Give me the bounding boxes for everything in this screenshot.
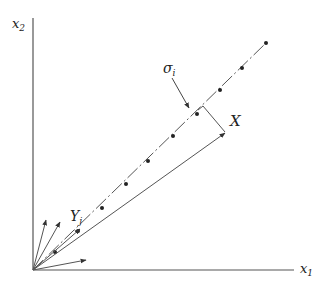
- diagram-canvas: x2 x1 σi X Yj: [0, 0, 328, 287]
- y-vector-line: [33, 229, 80, 270]
- point: [264, 41, 268, 45]
- x-vector-line: [33, 133, 225, 270]
- y-axis-label: x2: [12, 16, 25, 33]
- sigma-pointer-arrow: [172, 78, 189, 108]
- vector-arrow-3: [33, 260, 86, 270]
- point: [146, 159, 150, 163]
- point: [195, 112, 199, 116]
- sigma-label: σi: [163, 60, 176, 78]
- y-label: Yj: [70, 208, 82, 226]
- point: [240, 66, 244, 70]
- x-bracket: [203, 106, 225, 132]
- x-axis-label: x1: [300, 261, 313, 278]
- point: [218, 88, 222, 92]
- x-label: X: [229, 112, 242, 130]
- point: [124, 182, 128, 186]
- point: [100, 206, 104, 210]
- point: [171, 134, 175, 138]
- sigma-dashed-line: [33, 43, 266, 270]
- vector-arrow-2: [33, 222, 60, 270]
